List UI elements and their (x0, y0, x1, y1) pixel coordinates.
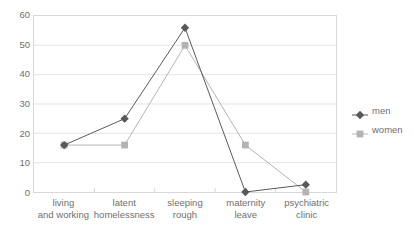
data-point-marker (181, 24, 189, 32)
legend: menwomen (352, 104, 412, 142)
legend-item-women[interactable]: women (352, 123, 412, 137)
legend-item-men[interactable]: men (352, 104, 412, 118)
x-tick-label-line: maternity (215, 197, 276, 209)
data-point-marker (302, 181, 310, 189)
data-point-marker (121, 142, 128, 149)
legend-marker-icon (352, 125, 368, 135)
data-point-marker (182, 42, 189, 49)
y-tick-label: 40 (4, 69, 30, 79)
x-tick-label: livingand working (33, 197, 94, 227)
x-axis: livingand workinglatenthomelessnesssleep… (33, 197, 337, 227)
data-point-marker (242, 142, 249, 149)
x-tick-label-line: sleeping (155, 197, 216, 209)
y-tick-label: 60 (4, 10, 30, 20)
x-tick-label-line: living (33, 197, 94, 209)
x-tick-label-line: homelessness (94, 209, 155, 221)
legend-marker-icon (352, 106, 368, 116)
data-point-marker (120, 115, 128, 123)
y-tick-label: 30 (4, 99, 30, 109)
x-tick-label: latenthomelessness (94, 197, 155, 227)
data-point-marker (356, 111, 364, 119)
data-point-marker (241, 188, 249, 196)
y-tick-label: 20 (4, 129, 30, 139)
series-women (61, 42, 309, 195)
plot-area (33, 15, 337, 193)
x-tick-label-line: psychiatric (276, 197, 337, 209)
y-axis: 6050403020100 (0, 15, 30, 193)
series-line (64, 45, 306, 192)
y-tick-label: 10 (4, 158, 30, 168)
x-tick-label: sleepingrough (155, 197, 216, 227)
chart-container: 6050403020100 livingand workinglatenthom… (0, 0, 414, 229)
y-tick-label: 50 (4, 40, 30, 50)
data-point-marker (357, 131, 364, 138)
legend-item-label: men (372, 106, 390, 116)
legend-item-label: women (372, 125, 403, 135)
series-men (60, 24, 310, 197)
x-tick-label-line: latent (94, 197, 155, 209)
x-tick-label: psychiatricclinic (276, 197, 337, 227)
data-point-marker (302, 189, 309, 196)
x-tick-label-line: rough (155, 209, 216, 221)
data-series-layer (34, 16, 336, 192)
x-tick-label-line: and working (33, 209, 94, 221)
x-tick-label: maternityleave (215, 197, 276, 227)
series-line (64, 28, 306, 192)
y-tick-label: 0 (4, 188, 30, 198)
x-tick-label-line: leave (215, 209, 276, 221)
x-tick-label-line: clinic (276, 209, 337, 221)
